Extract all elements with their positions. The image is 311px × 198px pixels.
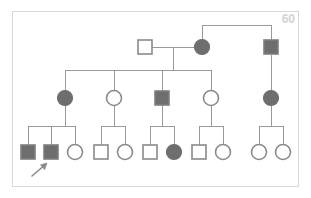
symbol-II-5-female-affected[interactable] [264,91,279,106]
symbol-III-1-male-affected[interactable] [21,145,35,159]
symbol-III-10-female-unaffected[interactable] [252,145,267,160]
pedigree-canvas [0,0,311,198]
symbol-III-7-female-affected[interactable] [167,145,182,160]
symbol-III-11-female-unaffected[interactable] [276,145,291,160]
symbol-III-8-male-unaffected[interactable] [192,145,206,159]
symbol-III-4-male-unaffected[interactable] [94,145,108,159]
symbol-II-2-female-unaffected[interactable] [107,91,122,106]
symbol-I-3-male-affected[interactable] [264,40,278,54]
pedigree-symbols-group [21,40,291,160]
symbol-III-9-female-unaffected[interactable] [216,145,231,160]
symbol-III-5-female-unaffected[interactable] [118,145,133,160]
symbol-III-6-male-unaffected[interactable] [143,145,157,159]
symbol-I-2-female-affected[interactable] [195,40,210,55]
symbol-II-4-female-unaffected[interactable] [204,91,219,106]
symbol-III-2-male-affected-proband[interactable] [44,145,58,159]
symbol-II-1-female-affected[interactable] [58,91,73,106]
symbol-I-1-male-unaffected[interactable] [138,40,152,54]
symbol-III-3-female-unaffected[interactable] [68,145,83,160]
connector-lines-group [28,25,283,145]
pedigree-figure: 60 [0,0,311,198]
symbol-II-3-male-affected[interactable] [155,91,169,105]
proband-arrow-icon [32,163,47,176]
